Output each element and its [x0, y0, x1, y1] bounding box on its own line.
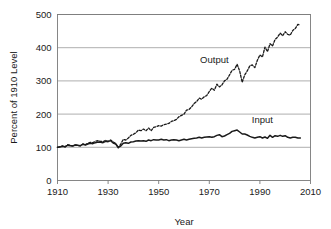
chart-canvas: 0100200300400500 19101930195019701990201… [0, 0, 331, 229]
y-axis-title: Percent of 1910 Level [8, 51, 19, 143]
x-tick-label-1910: 1910 [47, 186, 68, 197]
x-tick-label-2010: 2010 [300, 186, 321, 197]
y-tick-label-200: 200 [36, 109, 52, 120]
series-label-input: Input [252, 114, 273, 125]
x-axis-title: Year [174, 216, 193, 227]
y-tick-label-100: 100 [36, 142, 52, 153]
y-tick-label-500: 500 [36, 9, 52, 20]
y-tick-label-400: 400 [36, 42, 52, 53]
y-tick-label-0: 0 [46, 175, 51, 186]
x-tick-label-1990: 1990 [249, 186, 270, 197]
x-tick-label-1930: 1930 [98, 186, 119, 197]
x-tick-label-1950: 1950 [148, 186, 169, 197]
x-tick-label-1970: 1970 [199, 186, 220, 197]
chart-figure: 0100200300400500 19101930195019701990201… [0, 0, 331, 229]
series-label-output: Output [200, 54, 229, 65]
y-tick-label-300: 300 [36, 75, 52, 86]
